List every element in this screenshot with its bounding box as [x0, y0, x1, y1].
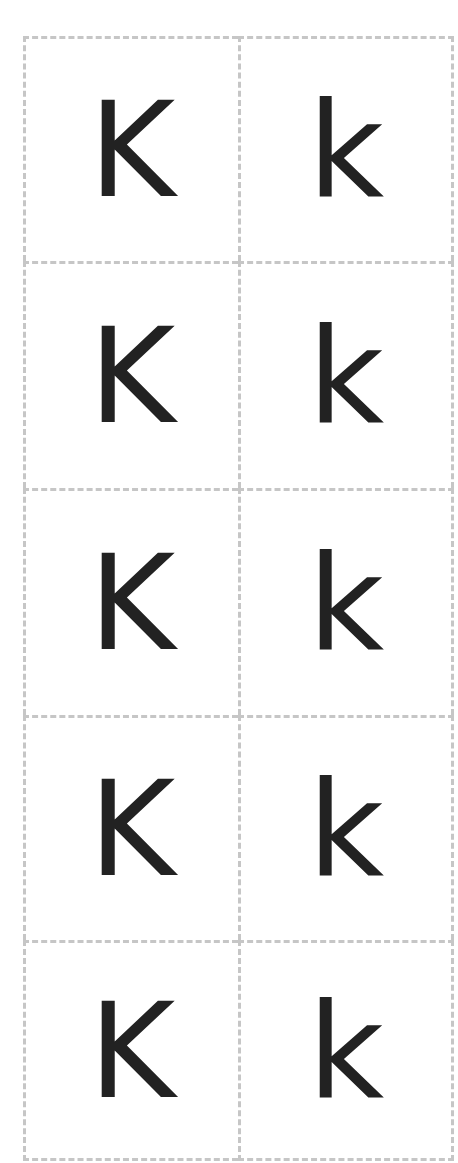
card-lowercase: k: [238, 261, 454, 488]
letter-uppercase: K: [89, 537, 176, 669]
letter-card-grid: K k K k K k K k K k: [23, 36, 454, 1161]
card-lowercase: k: [238, 940, 454, 1161]
card-lowercase: k: [238, 715, 454, 940]
letter-uppercase: K: [89, 84, 176, 216]
letter-lowercase: k: [308, 985, 384, 1117]
letter-uppercase: K: [89, 763, 176, 895]
letter-uppercase: K: [89, 310, 176, 442]
letter-lowercase: k: [308, 84, 384, 216]
letter-uppercase: K: [89, 985, 176, 1117]
card-uppercase: K: [23, 488, 238, 715]
letter-lowercase: k: [308, 763, 384, 895]
card-uppercase: K: [23, 940, 238, 1161]
card-uppercase: K: [23, 261, 238, 488]
letter-lowercase: k: [308, 310, 384, 442]
card-lowercase: k: [238, 488, 454, 715]
card-uppercase: K: [23, 36, 238, 261]
card-uppercase: K: [23, 715, 238, 940]
card-lowercase: k: [238, 36, 454, 261]
letter-lowercase: k: [308, 537, 384, 669]
